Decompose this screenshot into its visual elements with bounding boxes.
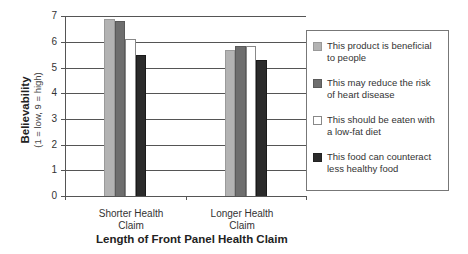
legend-label-line: of heart disease bbox=[327, 89, 445, 101]
legend-item-heart-disease: This may reduce the risk of heart diseas… bbox=[313, 77, 445, 101]
y-axis-label: Believability bbox=[19, 55, 32, 165]
bar bbox=[246, 46, 257, 196]
y-tick-label: 1 bbox=[43, 165, 57, 175]
y-axis-sublabel: (1 = low, 9 = high) bbox=[32, 55, 43, 165]
bar bbox=[136, 55, 147, 196]
bar bbox=[104, 19, 115, 196]
legend-label: This may reduce the risk of heart diseas… bbox=[327, 77, 445, 101]
x-tick bbox=[306, 196, 307, 200]
gridline bbox=[65, 16, 306, 17]
y-tick-label: 6 bbox=[43, 37, 57, 47]
category-label-line: Claim bbox=[76, 220, 186, 232]
category-label-longer: Longer Health Claim bbox=[187, 208, 297, 232]
bar bbox=[256, 60, 267, 196]
gridline bbox=[65, 42, 306, 43]
legend-label-line: This may reduce the risk bbox=[327, 77, 445, 89]
x-axis-label: Length of Front Panel Health Claim bbox=[96, 233, 288, 245]
gridline bbox=[65, 145, 306, 146]
legend-label-line: a low-fat diet bbox=[327, 126, 445, 138]
legend-swatch-light-gray bbox=[313, 42, 322, 51]
bar bbox=[115, 21, 126, 196]
category-label-line: Shorter Health bbox=[76, 208, 186, 220]
legend-item-counteract: This food can counteract less healthy fo… bbox=[313, 151, 445, 175]
gridline bbox=[65, 170, 306, 171]
y-tick-label: 0 bbox=[43, 191, 57, 201]
legend-item-beneficial: This product is beneficial to people bbox=[313, 40, 445, 64]
category-label-shorter: Shorter Health Claim bbox=[76, 208, 186, 232]
legend-label-line: This should be eaten with bbox=[327, 114, 445, 126]
legend-label: This food can counteract less healthy fo… bbox=[327, 151, 445, 175]
legend-label-line: This food can counteract bbox=[327, 151, 445, 163]
category-label-line: Longer Health bbox=[187, 208, 297, 220]
y-axis-title: Believability (1 = low, 9 = high) bbox=[19, 55, 47, 165]
category-label-line: Claim bbox=[187, 220, 297, 232]
legend-label-line: to people bbox=[327, 52, 445, 64]
bar bbox=[235, 46, 246, 196]
legend-label: This should be eaten with a low-fat diet bbox=[327, 114, 445, 138]
x-tick bbox=[186, 196, 187, 200]
gridline bbox=[65, 68, 306, 69]
legend-item-low-fat: This should be eaten with a low-fat diet bbox=[313, 114, 445, 138]
gridline bbox=[65, 119, 306, 120]
gridline bbox=[65, 93, 306, 94]
x-tick bbox=[65, 196, 66, 200]
bar bbox=[225, 50, 236, 196]
legend-swatch-dark-gray bbox=[313, 79, 322, 88]
bar bbox=[125, 39, 136, 196]
legend-label-line: This product is beneficial bbox=[327, 40, 445, 52]
y-axis bbox=[65, 16, 66, 200]
legend-swatch-white bbox=[313, 116, 322, 125]
legend-swatch-black bbox=[313, 153, 322, 162]
y-tick-label: 7 bbox=[43, 11, 57, 21]
legend: This product is beneficial to people Thi… bbox=[306, 30, 449, 191]
legend-label: This product is beneficial to people bbox=[327, 40, 445, 64]
legend-label-line: less healthy food bbox=[327, 163, 445, 175]
